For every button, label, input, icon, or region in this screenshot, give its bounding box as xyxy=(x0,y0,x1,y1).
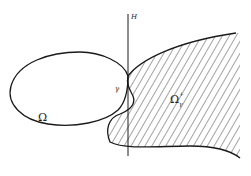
curve-gamma-label: γ xyxy=(115,86,119,93)
diagram-canvas: H γ Ω Ω + γ xyxy=(0,0,251,176)
region-label-sub: γ xyxy=(179,101,183,107)
diagram-svg xyxy=(0,0,251,176)
region-omega-gamma-plus-label: Ω + γ xyxy=(170,94,179,105)
domain-omega-label: Ω xyxy=(38,112,47,123)
omega-domain-boundary xyxy=(10,52,128,125)
hyperplane-label: H xyxy=(131,14,137,21)
region-label-base: Ω xyxy=(170,93,179,106)
region-label-sup: + xyxy=(179,91,184,97)
